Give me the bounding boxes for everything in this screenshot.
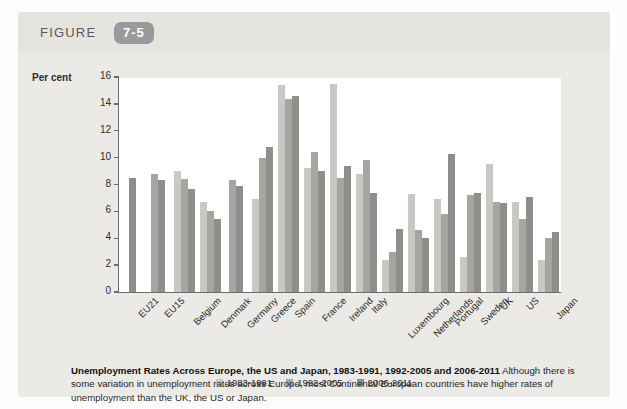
plot-area: Per cent 0246810121416 EU21EU15BelgiumDe… xyxy=(18,52,610,347)
bar xyxy=(259,158,266,292)
bar xyxy=(252,199,259,292)
bar xyxy=(467,195,474,292)
bar xyxy=(181,179,188,292)
bars-layer xyxy=(119,78,561,292)
bar xyxy=(129,178,136,292)
bar xyxy=(422,238,429,292)
bar xyxy=(519,219,526,292)
y-tick-label: 8 xyxy=(65,178,111,189)
bar-group xyxy=(380,78,406,292)
bar xyxy=(493,202,500,292)
bar xyxy=(266,147,273,292)
x-axis-label: Spain xyxy=(292,295,317,320)
y-tick-label: 14 xyxy=(65,97,111,108)
bar xyxy=(500,203,507,292)
figure-header-band: FIGURE 7-5 xyxy=(18,12,610,52)
bar xyxy=(318,171,325,292)
bar-group xyxy=(327,78,353,292)
bar xyxy=(415,230,422,292)
y-tick-label: 16 xyxy=(65,70,111,81)
bar xyxy=(151,174,158,292)
y-tick-label: 12 xyxy=(65,124,111,135)
x-axis-label: France xyxy=(320,295,349,324)
bar-group xyxy=(301,78,327,292)
chart-axes: 0246810121416 xyxy=(118,78,561,293)
y-tick-label: 4 xyxy=(65,231,111,242)
bar xyxy=(229,180,236,292)
bar xyxy=(174,171,181,292)
bar-group xyxy=(406,78,432,292)
bar xyxy=(382,260,389,292)
bar xyxy=(552,232,559,292)
bar xyxy=(512,202,519,292)
bar xyxy=(292,96,299,292)
bar xyxy=(278,85,285,292)
bar xyxy=(330,84,337,292)
bar xyxy=(363,160,370,292)
bar-group xyxy=(432,78,458,292)
y-tick-label: 0 xyxy=(65,285,111,296)
bar-group xyxy=(510,78,536,292)
bar xyxy=(441,214,448,292)
bar xyxy=(200,202,207,292)
bar xyxy=(396,229,403,292)
figure-label: FIGURE xyxy=(40,25,96,40)
bar xyxy=(285,99,292,293)
bar-group xyxy=(145,78,171,292)
bar-group xyxy=(223,78,249,292)
bar xyxy=(344,166,351,292)
x-axis-label: EU15 xyxy=(162,295,187,320)
bar xyxy=(389,252,396,292)
bar-group xyxy=(119,78,145,292)
figure-card: FIGURE 7-5 Per cent 0246810121416 EU21EU… xyxy=(18,12,610,397)
bar xyxy=(408,194,415,292)
x-axis-labels: EU21EU15BelgiumDenmarkGermanyGreeceSpain… xyxy=(118,295,561,347)
bar xyxy=(188,189,195,292)
x-axis-label: EU21 xyxy=(136,295,161,320)
bar xyxy=(370,193,377,292)
bar xyxy=(460,257,467,292)
bar-group xyxy=(484,78,510,292)
bar-group xyxy=(171,78,197,292)
bar-group xyxy=(536,78,562,292)
caption-lead: Unemployment Rates Across Europe, the US… xyxy=(71,365,500,376)
bar xyxy=(158,180,165,292)
bar xyxy=(434,199,441,292)
bar xyxy=(486,164,493,292)
bar xyxy=(236,186,243,292)
bar-group xyxy=(275,78,301,292)
bar xyxy=(545,238,552,292)
bar-group xyxy=(458,78,484,292)
y-tick-label: 10 xyxy=(65,151,111,162)
figure-page: FIGURE 7-5 Per cent 0246810121416 EU21EU… xyxy=(0,0,627,409)
bar-group xyxy=(249,78,275,292)
bar xyxy=(337,178,344,292)
x-axis-label: Italy xyxy=(369,295,389,315)
bar xyxy=(526,197,533,292)
bar-group xyxy=(197,78,223,292)
figure-caption: Unemployment Rates Across Europe, the US… xyxy=(71,364,599,404)
y-tick-label: 2 xyxy=(65,258,111,269)
bar xyxy=(538,260,545,292)
bar xyxy=(207,211,214,292)
bar xyxy=(304,168,311,292)
bar-group xyxy=(354,78,380,292)
figure-number-badge: 7-5 xyxy=(114,22,154,44)
x-axis-label: Japan xyxy=(554,295,580,321)
bar xyxy=(356,174,363,292)
bar xyxy=(214,219,221,292)
bar xyxy=(311,152,318,292)
bar xyxy=(474,193,481,292)
bar xyxy=(448,154,455,292)
x-axis-label: US xyxy=(524,295,541,312)
y-tick-label: 6 xyxy=(65,204,111,215)
